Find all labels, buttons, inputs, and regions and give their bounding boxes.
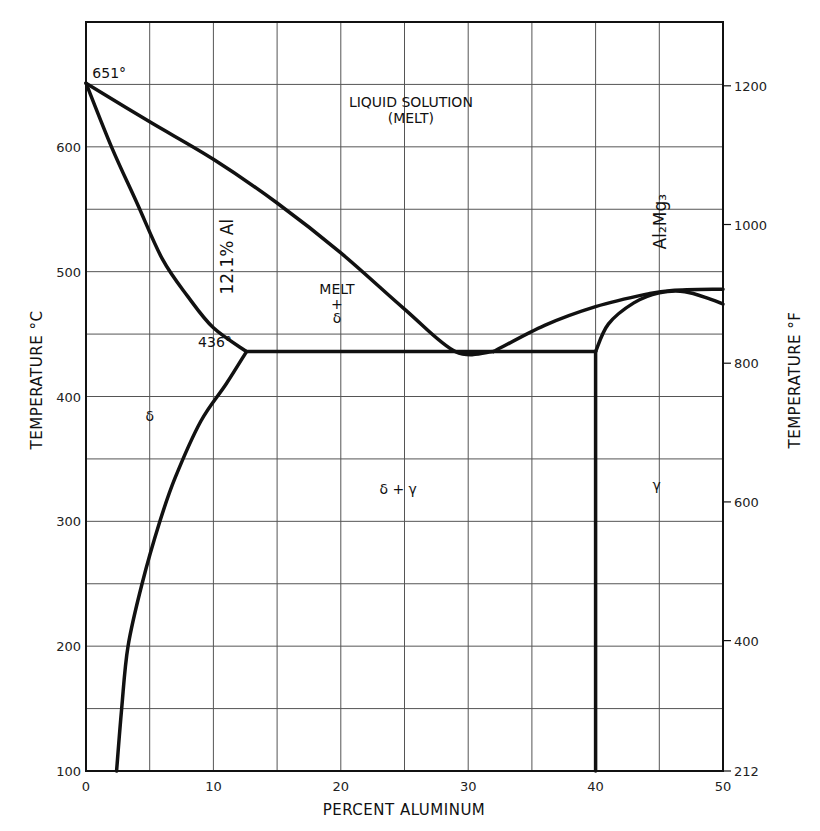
annotation-label: δ [333,310,342,326]
y-tick-label: 600 [56,140,81,155]
x-axis-label: PERCENT ALUMINUM [323,801,486,819]
annotation-label: 651° [92,65,126,81]
annotations: 651°436°LIQUID SOLUTION(MELT)12.1% AlMEL… [92,65,669,497]
y-right-tick-label: 600 [734,495,759,510]
curve-solidus-delta [86,83,247,351]
y-right-tick-label: 1000 [734,218,767,233]
x-tick-label: 0 [82,779,90,794]
annotation-label: LIQUID SOLUTION [349,94,473,110]
y-axis-label-fahrenheit: TEMPERATURE °F [786,312,804,450]
annotation-label: Al₂Mg₃ [650,194,670,249]
y-tick-label: 200 [56,639,81,654]
y-tick-label: 300 [56,514,81,529]
annotation-label: MELT [319,281,355,297]
axis-ticks: 0102030405010020030040050060021240060080… [56,79,767,794]
annotation-label: 12.1% Al [217,219,237,295]
curve-liquidus-al-side [494,289,723,351]
x-tick-label: 20 [333,779,350,794]
grid [86,22,723,771]
y-right-tick-label: 800 [734,356,759,371]
x-tick-label: 50 [715,779,732,794]
x-tick-label: 10 [205,779,222,794]
annotation-label: δ [145,408,154,424]
y-tick-label: 500 [56,265,81,280]
y-axis-label-celsius: TEMPERATURE °C [28,311,46,451]
y-tick-label: 100 [56,764,81,779]
y-right-tick-label: 212 [734,764,759,779]
y-tick-label: 400 [56,390,81,405]
x-tick-label: 30 [460,779,477,794]
y-right-tick-label: 400 [734,634,759,649]
annotation-label: 436° [198,334,232,350]
annotation-label: (MELT) [388,110,434,126]
phase-diagram-chart: 0102030405010020030040050060021240060080… [0,0,820,831]
annotation-label: γ [653,477,661,493]
y-right-tick-label: 1200 [734,79,767,94]
x-tick-label: 40 [587,779,604,794]
annotation-label: δ + γ [379,481,416,497]
